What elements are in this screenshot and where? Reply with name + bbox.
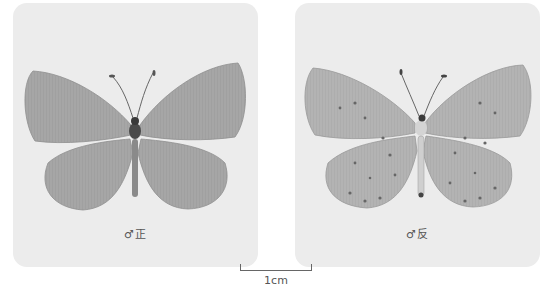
scale-bar [240,264,312,271]
scale-bar-label: 1cm [240,274,312,287]
caption-male-ventral: ♂反 [295,225,540,241]
specimen-panel-dorsal: ♂正 [13,3,258,267]
caption-male-dorsal: ♂正 [13,225,258,241]
specimen-panel-ventral: ♂反 [295,3,540,267]
